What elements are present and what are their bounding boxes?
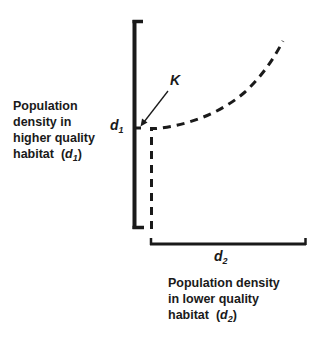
k-arrow xyxy=(141,91,169,127)
d2-tick-label: d2 xyxy=(214,248,228,264)
x-axis xyxy=(150,238,306,245)
x-axis-label: Population density in lower quality habi… xyxy=(168,275,280,323)
dashed-curve xyxy=(152,41,284,229)
d1-tick-label: d1 xyxy=(110,117,124,133)
k-label: K xyxy=(170,72,180,88)
y-axis-label: Population density in higher quality hab… xyxy=(13,98,95,162)
